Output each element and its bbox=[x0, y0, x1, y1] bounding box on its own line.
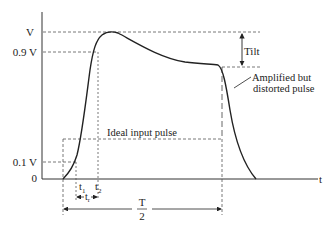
distorted-pulse-curve bbox=[63, 32, 256, 179]
label-v: V bbox=[26, 26, 34, 38]
pulse-diagram: V 0.9 V 0.1 V 0 t Ideal input pulse Tilt… bbox=[0, 0, 326, 230]
label-t-axis: t bbox=[319, 173, 322, 185]
half-period-numerator: T bbox=[139, 196, 146, 208]
axes bbox=[42, 12, 318, 179]
t2-label: t2 bbox=[95, 181, 102, 195]
label-0-1v: 0.1 V bbox=[13, 156, 37, 168]
ideal-pulse-label: Ideal input pulse bbox=[107, 127, 177, 138]
distorted-label-2: distorted pulse bbox=[253, 83, 315, 94]
time-markers bbox=[76, 52, 98, 200]
tilt-label: Tilt bbox=[244, 45, 260, 57]
label-0-9v: 0.9 V bbox=[13, 46, 37, 58]
distorted-label-1: Amplified but bbox=[252, 72, 311, 83]
tr-label: tr bbox=[85, 191, 91, 203]
label-zero: 0 bbox=[32, 172, 38, 184]
half-period-denominator: 2 bbox=[139, 210, 145, 222]
distorted-leader-line bbox=[234, 77, 251, 88]
